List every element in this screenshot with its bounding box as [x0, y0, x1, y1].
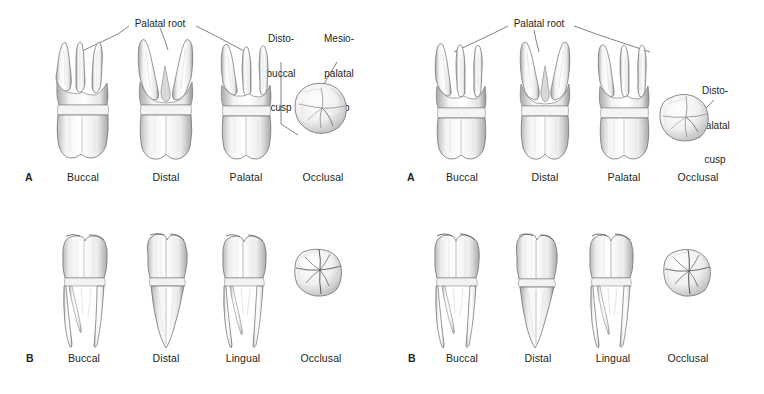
- row-letter-a: A: [407, 171, 415, 183]
- tooth-mandibular-lingual: [583, 231, 637, 353]
- mesio-palatal-cusp-line1: Mesio-: [310, 33, 368, 45]
- tooth-maxillary-buccal: [50, 35, 116, 161]
- palatal-root-label: Palatal root: [478, 18, 600, 30]
- disto-palatal-cusp-line3: cusp: [686, 154, 744, 166]
- row-letter-b: B: [26, 352, 34, 364]
- tooth-maxillary-palatal: [590, 36, 658, 162]
- caption-buccal: Buccal: [45, 171, 121, 183]
- panel-top-left: Palatal root Disto- buccal cusp Mesio- p…: [0, 0, 382, 197]
- caption-lingual: Lingual: [575, 352, 651, 364]
- tooth-maxillary-distal: [131, 32, 201, 162]
- caption-buccal: Buccal: [46, 352, 122, 364]
- tooth-mandibular-buccal: [429, 231, 483, 353]
- tooth-mandibular-distal: [140, 230, 190, 352]
- caption-palatal: Palatal: [208, 171, 284, 183]
- tooth-mandibular-occlusal: [659, 245, 715, 301]
- caption-distal: Distal: [128, 171, 204, 183]
- caption-buccal: Buccal: [424, 171, 500, 183]
- panel-bottom-right: B Buccal Distal Lingual Occlusal: [382, 197, 764, 394]
- caption-distal: Distal: [507, 171, 583, 183]
- caption-distal: Distal: [500, 352, 576, 364]
- tooth-mandibular-lingual: [216, 232, 270, 352]
- caption-occlusal: Occlusal: [285, 171, 361, 183]
- molar-anatomy-figure: Palatal root Disto- buccal cusp Mesio- p…: [0, 0, 764, 394]
- tooth-maxillary-palatal: [213, 35, 279, 161]
- caption-occlusal: Occlusal: [660, 171, 736, 183]
- caption-lingual: Lingual: [205, 352, 281, 364]
- tooth-maxillary-occlusal: [656, 90, 714, 146]
- tooth-mandibular-buccal: [57, 232, 111, 352]
- caption-occlusal: Occlusal: [650, 352, 726, 364]
- tooth-maxillary-distal: [510, 34, 580, 162]
- panel-top-right: Palatal root Disto- palatal cusp: [382, 0, 764, 197]
- mesio-palatal-cusp-line2: palatal: [310, 68, 368, 80]
- caption-occlusal: Occlusal: [283, 352, 359, 364]
- caption-buccal: Buccal: [424, 352, 500, 364]
- row-letter-b: B: [408, 352, 416, 364]
- panel-bottom-left: B Buccal Distal Lingual Occlusal: [0, 197, 382, 394]
- tooth-mandibular-occlusal: [290, 245, 346, 301]
- tooth-mandibular-distal: [509, 230, 561, 352]
- caption-distal: Distal: [128, 352, 204, 364]
- caption-palatal: Palatal: [586, 171, 662, 183]
- palatal-root-label: Palatal root: [99, 18, 221, 30]
- row-letter-a: A: [25, 171, 33, 183]
- tooth-maxillary-buccal: [429, 36, 495, 162]
- tooth-maxillary-occlusal: [291, 80, 351, 138]
